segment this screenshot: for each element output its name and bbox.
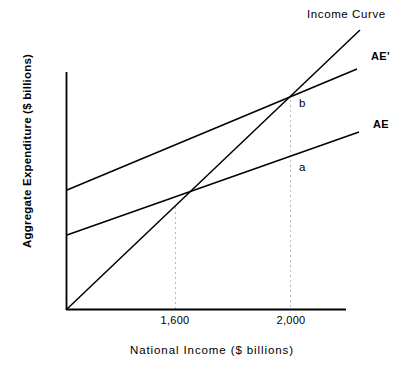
chart-container: Aggregate Expenditure ($ billions) Natio… [0,0,415,366]
chart-plot-area [0,0,415,366]
x-axis-title: National Income ($ billions) [130,345,294,357]
x-axis-tick-label-1600: 1,600 [160,315,189,326]
series-line-ae [67,132,359,235]
series-line-income-curve [67,30,360,309]
point-label-a: a [299,162,305,174]
series-label-ae: AE [373,119,389,130]
x-axis-tick-label-2000: 2,000 [276,315,305,326]
y-axis-title: Aggregate Expenditure ($ billions) [22,18,36,248]
series-label-income-curve: Income Curve [307,9,386,21]
point-label-b: b [299,98,305,110]
series-label-ae-prime: AE' [371,51,390,62]
